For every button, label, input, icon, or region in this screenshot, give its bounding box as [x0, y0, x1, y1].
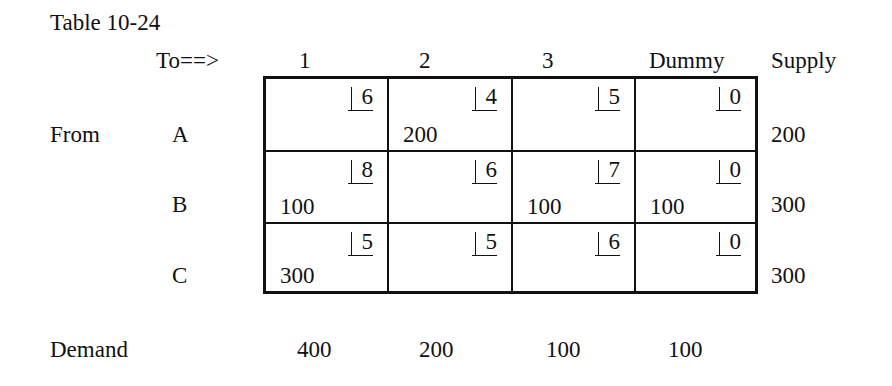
cell-a-3: 5: [513, 79, 634, 150]
cell-b-2: 6: [389, 152, 511, 222]
row-label-a: A: [172, 123, 189, 146]
demand-1: 400: [297, 338, 332, 361]
demand-label: Demand: [50, 338, 128, 361]
demand-2: 200: [419, 338, 454, 361]
supply-header: Supply: [771, 49, 836, 72]
cost-box: 6: [472, 158, 498, 184]
cell-a-dummy: 0: [636, 79, 755, 150]
cost-box: 6: [595, 230, 621, 256]
cost-box: 5: [348, 230, 374, 256]
allocation: 300: [280, 264, 315, 287]
cell-c-dummy: 0: [636, 224, 755, 291]
cost-box: 0: [716, 230, 742, 256]
column-header-1: 1: [299, 49, 311, 72]
supply-a: 200: [771, 123, 806, 146]
transportation-table: 6 4 200 5 0 8 100 6 7 100 0 100 5 300 5 …: [263, 76, 758, 294]
cost-box: 5: [595, 85, 621, 111]
allocation: 200: [403, 123, 438, 146]
cell-b-dummy: 0 100: [636, 152, 755, 222]
cell-c-1: 5 300: [266, 224, 387, 291]
row-label-c: C: [172, 264, 187, 287]
demand-dummy: 100: [668, 338, 703, 361]
cell-c-3: 6: [513, 224, 634, 291]
allocation: 100: [650, 195, 685, 218]
column-header-dummy: Dummy: [649, 49, 724, 72]
cost-box: 0: [716, 158, 742, 184]
from-label: From: [50, 123, 100, 146]
cell-a-2: 4 200: [389, 79, 511, 150]
cost-box: 5: [472, 230, 498, 256]
supply-c: 300: [771, 264, 806, 287]
cell-a-1: 6: [266, 79, 387, 150]
cost-box: 0: [716, 85, 742, 111]
table-title: Table 10-24: [50, 11, 160, 34]
to-label: To==>: [156, 49, 219, 72]
row-label-b: B: [172, 193, 187, 216]
cost-box: 7: [595, 158, 621, 184]
cost-box: 8: [348, 158, 374, 184]
cost-box: 4: [472, 85, 498, 111]
cell-b-1: 8 100: [266, 152, 387, 222]
cell-c-2: 5: [389, 224, 511, 291]
supply-b: 300: [771, 193, 806, 216]
cost-box: 6: [348, 85, 374, 111]
allocation: 100: [527, 195, 562, 218]
cell-b-3: 7 100: [513, 152, 634, 222]
allocation: 100: [280, 195, 315, 218]
column-header-3: 3: [542, 49, 554, 72]
demand-3: 100: [546, 338, 581, 361]
column-header-2: 2: [419, 49, 431, 72]
